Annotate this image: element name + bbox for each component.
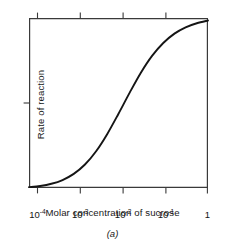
data-curve — [29, 21, 208, 188]
x-axis-title: Molar concentration of sucrose — [0, 207, 225, 218]
plot-area: Rate of reaction 10-4 10-3 10-2 10-1 1 — [29, 18, 208, 188]
bottom-axis-ticks — [38, 187, 208, 193]
top-axis-ticks — [38, 13, 166, 19]
axis-frame — [29, 18, 208, 188]
y-axis-title: Rate of reaction — [35, 25, 46, 185]
figure-container: Rate of reaction 10-4 10-3 10-2 10-1 1 M… — [0, 0, 225, 250]
plot-svg — [29, 18, 208, 188]
figure-caption: (a) — [0, 228, 225, 239]
